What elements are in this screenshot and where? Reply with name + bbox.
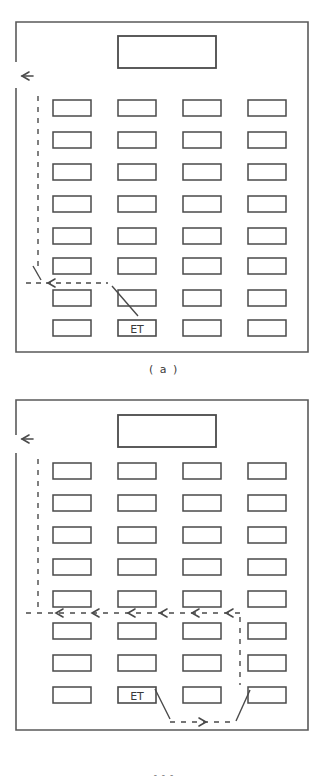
desk <box>183 258 221 274</box>
panel-a: ET ( a ) <box>0 0 328 390</box>
desk <box>183 559 221 575</box>
desk <box>53 228 91 244</box>
desk <box>118 463 156 479</box>
desk <box>53 100 91 116</box>
bottom-artifact: - - - <box>0 770 328 779</box>
desk <box>183 196 221 212</box>
et-label-b: ET <box>130 690 144 703</box>
podium-box-b <box>118 415 216 447</box>
desk <box>248 623 286 639</box>
desk <box>118 196 156 212</box>
desk <box>248 655 286 671</box>
desk <box>183 463 221 479</box>
desk <box>118 559 156 575</box>
desk <box>183 228 221 244</box>
desk <box>183 495 221 511</box>
desk <box>248 559 286 575</box>
desk <box>53 591 91 607</box>
podium-box-a <box>118 36 216 68</box>
desk <box>183 320 221 336</box>
desk <box>118 527 156 543</box>
figure-page: ET ( a ) <box>0 0 328 779</box>
desk <box>183 290 221 306</box>
desk <box>248 591 286 607</box>
room-frame-b <box>16 400 308 730</box>
desk <box>53 320 91 336</box>
desk <box>183 687 221 703</box>
desk <box>248 463 286 479</box>
desk-grid-b <box>53 463 286 703</box>
corridor-arrow-icon <box>226 609 233 617</box>
desk <box>118 164 156 180</box>
desk <box>248 320 286 336</box>
desk <box>183 623 221 639</box>
caption-a: ( a ) <box>0 363 328 376</box>
desk <box>183 100 221 116</box>
desk <box>118 623 156 639</box>
corridor-arrow-icon <box>160 609 167 617</box>
panel-b: ET ( b ) <box>0 389 328 779</box>
desk <box>248 164 286 180</box>
evacuation-path-a <box>26 96 138 316</box>
row-arrow-icon <box>48 279 55 287</box>
desk <box>248 100 286 116</box>
desk <box>53 559 91 575</box>
desk <box>248 132 286 148</box>
desk <box>248 290 286 306</box>
corridor-arrow-icon <box>128 609 135 617</box>
desk-grid-a <box>53 100 286 336</box>
desk <box>53 623 91 639</box>
desk <box>118 258 156 274</box>
desk <box>53 164 91 180</box>
desk <box>118 655 156 671</box>
desk <box>248 228 286 244</box>
desk <box>183 132 221 148</box>
desk <box>53 527 91 543</box>
bottom-arrow-icon <box>199 718 206 726</box>
desk <box>183 164 221 180</box>
desk <box>53 687 91 703</box>
desk <box>53 258 91 274</box>
panel-b-canvas: ET <box>0 389 328 779</box>
desk <box>183 591 221 607</box>
desk <box>248 258 286 274</box>
desk <box>118 228 156 244</box>
desk <box>118 591 156 607</box>
desk <box>53 132 91 148</box>
desk <box>248 527 286 543</box>
desk <box>53 495 91 511</box>
desk <box>118 100 156 116</box>
desk <box>53 290 91 306</box>
desk <box>248 687 286 703</box>
desk <box>183 527 221 543</box>
desk <box>183 655 221 671</box>
desk <box>53 196 91 212</box>
panel-a-canvas: ET <box>0 0 328 390</box>
desk <box>118 495 156 511</box>
desk <box>118 290 156 306</box>
et-label-a: ET <box>130 323 144 336</box>
room-frame-a <box>16 22 308 352</box>
desk <box>248 196 286 212</box>
desk <box>53 463 91 479</box>
desk <box>118 132 156 148</box>
desk <box>248 495 286 511</box>
desk <box>53 655 91 671</box>
